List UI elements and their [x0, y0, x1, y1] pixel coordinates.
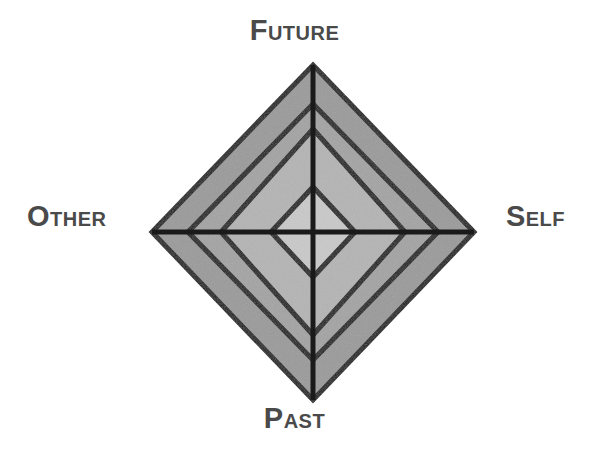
axis-label-other: Other: [27, 202, 107, 231]
axis-label-past: Past: [0, 404, 589, 433]
axis-label-future: Future: [0, 16, 589, 45]
radar-axes-group: [152, 65, 474, 400]
radar-diagram: Future Self Past Other: [0, 0, 589, 459]
axis-label-self: Self: [506, 202, 565, 231]
